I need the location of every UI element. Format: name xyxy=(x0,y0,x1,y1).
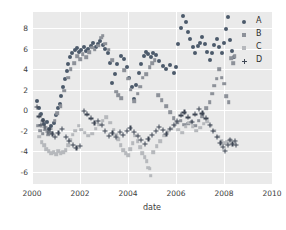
data-point-a xyxy=(222,41,226,45)
plot-area xyxy=(32,12,272,184)
data-point-b xyxy=(156,93,160,97)
data-point-b xyxy=(84,55,88,59)
data-point-a xyxy=(198,41,202,45)
data-point-a xyxy=(174,65,178,69)
data-point-c xyxy=(155,144,159,148)
data-point-b xyxy=(136,92,140,96)
data-point-c xyxy=(131,141,135,145)
data-point-b xyxy=(168,111,172,115)
data-point-c xyxy=(54,153,58,157)
legend-item-a[interactable]: A xyxy=(238,14,268,27)
data-point-c xyxy=(184,125,188,129)
y-axis-tick-label: -6 xyxy=(21,167,28,176)
gridline-vertical xyxy=(128,12,129,184)
data-point-c xyxy=(145,160,149,164)
data-point-b xyxy=(119,96,123,100)
data-point-c xyxy=(129,147,133,151)
data-point-c xyxy=(126,154,130,158)
data-point-a xyxy=(164,67,168,71)
data-point-c xyxy=(180,131,184,135)
gridline-vertical xyxy=(80,12,81,184)
data-point-a xyxy=(191,45,195,49)
x-axis-tick-label: 2004 xyxy=(118,189,137,198)
data-point-d xyxy=(223,149,228,154)
square-icon xyxy=(242,33,246,37)
data-point-c xyxy=(64,148,68,152)
y-axis-tick-label: -4 xyxy=(21,147,28,156)
data-point-d xyxy=(60,126,65,131)
data-point-b xyxy=(225,94,229,98)
gridline-horizontal xyxy=(32,28,272,29)
data-point-b xyxy=(59,104,63,108)
data-point-b xyxy=(41,132,45,136)
y-axis-tick-label: 8 xyxy=(23,24,28,33)
data-point-b xyxy=(153,58,157,62)
data-point-b xyxy=(160,98,164,102)
data-point-b xyxy=(148,65,152,69)
data-point-d xyxy=(214,134,219,139)
x-axis-tick-label: 2008 xyxy=(214,189,233,198)
data-point-a xyxy=(122,57,126,61)
data-point-a xyxy=(220,51,224,55)
data-point-a xyxy=(215,37,219,41)
data-point-b xyxy=(96,44,100,48)
data-point-a xyxy=(168,63,172,67)
data-point-a xyxy=(210,51,214,55)
data-point-a xyxy=(200,35,204,39)
data-point-c xyxy=(94,127,98,131)
data-point-d xyxy=(211,128,216,133)
data-point-c xyxy=(73,129,77,133)
legend-item-label: A xyxy=(256,14,261,27)
data-point-b xyxy=(197,119,201,123)
data-point-c xyxy=(108,121,112,125)
square-light-icon xyxy=(242,46,246,50)
data-point-a xyxy=(179,26,183,30)
data-point-a xyxy=(142,54,146,58)
circle-icon xyxy=(242,20,246,24)
x-axis-tick-label: 2010 xyxy=(262,189,281,198)
data-point-a xyxy=(113,72,117,76)
data-point-b xyxy=(78,57,82,61)
data-point-d xyxy=(207,122,212,127)
data-point-b xyxy=(72,61,76,65)
gridline-horizontal xyxy=(32,110,272,111)
data-point-a xyxy=(68,55,72,59)
gridline-horizontal xyxy=(32,172,272,173)
data-point-b xyxy=(204,106,208,110)
legend-item-c[interactable]: C xyxy=(238,40,268,53)
gridline-vertical xyxy=(176,12,177,184)
data-point-a xyxy=(193,51,197,55)
legend-item-label: C xyxy=(256,40,262,53)
data-point-c xyxy=(143,156,147,160)
data-point-a xyxy=(208,58,212,62)
data-point-d xyxy=(164,131,169,136)
data-point-a xyxy=(212,43,216,47)
data-point-b xyxy=(111,58,115,62)
data-point-a xyxy=(115,62,119,66)
data-point-a xyxy=(110,81,114,85)
legend-item-d[interactable]: D xyxy=(238,53,268,66)
legend-item-b[interactable]: B xyxy=(238,27,268,40)
scatter-chart-figure: 86420-2-4-6 200020022004200620082010 dat… xyxy=(0,0,286,230)
data-point-a xyxy=(228,38,232,42)
y-axis-tick-label: 0 xyxy=(23,106,28,115)
data-point-d xyxy=(34,105,39,110)
data-point-b xyxy=(144,73,148,77)
data-point-d xyxy=(114,134,119,139)
data-point-d xyxy=(204,116,209,121)
data-point-a xyxy=(35,99,39,103)
data-point-a xyxy=(154,53,158,57)
data-point-b xyxy=(87,50,91,54)
data-point-b xyxy=(53,119,57,123)
data-point-d xyxy=(234,143,239,148)
data-point-b xyxy=(107,48,111,52)
data-point-a xyxy=(217,45,221,49)
x-axis-title: date xyxy=(143,203,161,212)
y-axis-tick-label: 2 xyxy=(23,85,28,94)
data-point-d xyxy=(99,122,104,127)
data-point-c xyxy=(71,133,75,137)
data-point-b xyxy=(222,82,226,86)
data-point-b xyxy=(227,100,231,104)
data-point-a xyxy=(59,94,63,98)
data-point-a xyxy=(186,30,190,34)
